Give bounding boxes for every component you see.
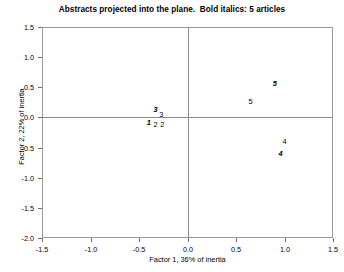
data-point-label: 3 bbox=[159, 111, 163, 118]
data-point-label: 4 bbox=[279, 150, 283, 157]
y-axis-tick bbox=[38, 238, 42, 239]
data-point-label: 2 bbox=[160, 122, 164, 129]
data-point-label: 5 bbox=[248, 99, 252, 106]
data-point-label: 2 bbox=[153, 121, 157, 128]
data-point-label: 1 bbox=[147, 119, 151, 126]
scatter-plot-figure: Abstracts projected into the plane. Bold… bbox=[0, 0, 344, 272]
x-axis-tick-label: -1.0 bbox=[76, 245, 106, 254]
y-axis-tick-label: -1.5 bbox=[12, 204, 34, 213]
x-axis-tick-label: 1.5 bbox=[318, 245, 344, 254]
x-axis-tick-label: -0.5 bbox=[124, 245, 154, 254]
y-axis-tick bbox=[38, 57, 42, 58]
y-axis-tick bbox=[38, 117, 42, 118]
x-axis-tick-label: 1.0 bbox=[270, 245, 300, 254]
data-point-label: 5 bbox=[273, 80, 277, 87]
data-point-label: 4 bbox=[282, 138, 286, 145]
x-axis-tick-label: 0.0 bbox=[173, 245, 203, 254]
y-axis-tick bbox=[38, 27, 42, 28]
x-axis-tick bbox=[42, 238, 43, 242]
x-axis-tick bbox=[285, 238, 286, 242]
chart-title: Abstracts projected into the plane. Bold… bbox=[0, 5, 344, 14]
x-axis-label: Factor 1, 36% of inertia bbox=[42, 255, 333, 264]
y-axis-tick bbox=[38, 148, 42, 149]
x-axis-tick bbox=[91, 238, 92, 242]
data-point-label: 3 bbox=[153, 106, 157, 113]
y-axis-tick bbox=[38, 87, 42, 88]
x-axis-tick bbox=[236, 238, 237, 242]
y-axis-tick bbox=[38, 208, 42, 209]
x-axis-tick-label: -1.5 bbox=[27, 245, 57, 254]
vertical-reference-line bbox=[188, 27, 189, 238]
y-axis-tick-label: -2.0 bbox=[12, 234, 34, 243]
y-axis-tick bbox=[38, 178, 42, 179]
y-axis-tick-label: 1.5 bbox=[12, 23, 34, 32]
y-axis-label: Factor 2, 22% of inertia bbox=[17, 52, 26, 202]
x-axis-tick-label: 0.5 bbox=[221, 245, 251, 254]
x-axis-tick bbox=[333, 238, 334, 242]
x-axis-tick bbox=[139, 238, 140, 242]
x-axis-tick bbox=[188, 238, 189, 242]
